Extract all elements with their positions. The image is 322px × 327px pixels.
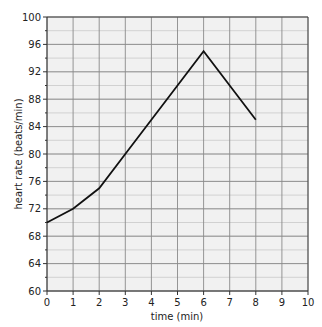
y-tick-label: 76 [28,176,41,187]
x-tick-label: 1 [70,297,76,308]
grid-lines [47,17,308,291]
x-tick-label: 8 [253,297,259,308]
y-tick-label: 64 [28,258,41,269]
line-chart: 012345678910 60646872768084889296100 tim… [0,0,322,327]
y-axis-title: heart rate (beats/min) [13,98,24,209]
x-tick-label: 2 [96,297,102,308]
y-tick-label: 68 [28,231,41,242]
y-tick-label: 72 [28,203,41,214]
x-tick-label: 7 [227,297,233,308]
x-axis-title: time (min) [151,311,204,322]
x-tick-label: 5 [174,297,180,308]
y-tick-label: 96 [28,39,41,50]
y-tick-label: 100 [22,12,41,23]
y-tick-label: 60 [28,286,41,297]
x-tick-label: 9 [279,297,285,308]
x-tick-label: 10 [302,297,315,308]
y-tick-label: 92 [28,66,41,77]
x-tick-label: 4 [148,297,154,308]
x-tick-label: 0 [44,297,50,308]
y-tick-label: 80 [28,149,41,160]
y-tick-label: 84 [28,121,41,132]
x-tick-label: 3 [122,297,128,308]
x-axis-tick-labels: 012345678910 [44,297,315,308]
x-tick-label: 6 [200,297,206,308]
y-tick-label: 88 [28,94,41,105]
y-axis-tick-labels: 60646872768084889296100 [22,12,41,297]
